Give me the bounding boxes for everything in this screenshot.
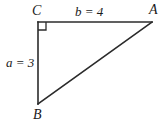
side-length-label-b: b = 4 — [75, 5, 103, 18]
vertex-label-a: A — [149, 3, 158, 17]
right-angle-marker-icon — [38, 22, 46, 30]
side-length-label-a: a = 3 — [6, 56, 34, 69]
vertex-label-b: B — [33, 108, 42, 122]
vertex-label-c: C — [32, 4, 41, 18]
hypotenuse-line — [38, 22, 152, 104]
right-triangle-figure: C A B b = 4 a = 3 — [0, 0, 167, 126]
